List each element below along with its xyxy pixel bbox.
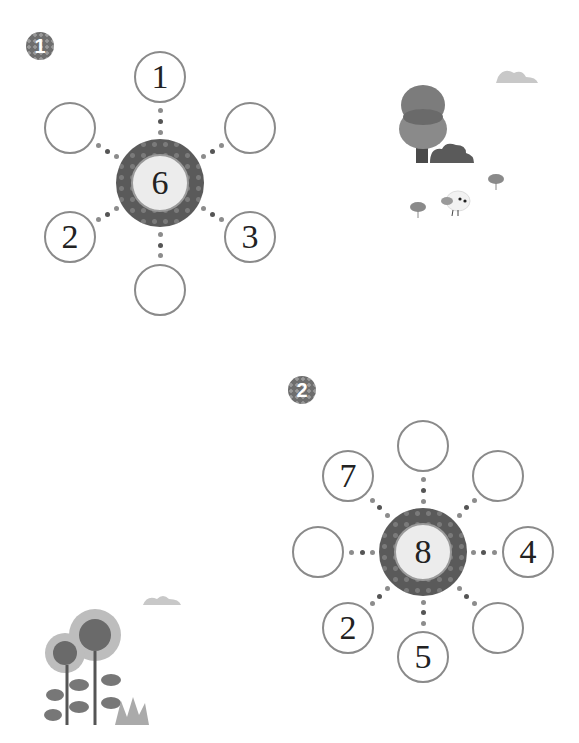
- connector-dot: [370, 498, 375, 503]
- connector-dot: [96, 143, 101, 148]
- answer-circle-top[interactable]: 1: [134, 51, 186, 103]
- answer-circle-lower-left[interactable]: 2: [44, 211, 96, 263]
- answer-circle-right[interactable]: 4: [502, 526, 554, 578]
- connector-dot: [471, 550, 476, 555]
- connector-dot: [421, 610, 426, 615]
- problem-number-badge: 2: [288, 376, 316, 404]
- connector-dot: [492, 550, 497, 555]
- connector-dot: [96, 217, 101, 222]
- connector-dot: [370, 550, 375, 555]
- hub-number: 6: [131, 154, 189, 212]
- answer-circle-upper-right[interactable]: [224, 102, 276, 154]
- connector-dot: [158, 253, 163, 258]
- connector-dot: [114, 206, 119, 211]
- connector-dot: [464, 505, 469, 510]
- connector-dot: [158, 108, 163, 113]
- connector-dot: [385, 586, 390, 591]
- connector-dot: [421, 499, 426, 504]
- answer-circle-lower-right[interactable]: 3: [224, 211, 276, 263]
- answer-circle-bottom[interactable]: 5: [397, 631, 449, 683]
- sunflower-illustration: [35, 585, 200, 730]
- connector-dot: [158, 232, 163, 237]
- connector-dot: [158, 130, 163, 135]
- answer-circle-top[interactable]: [397, 420, 449, 472]
- answer-circle-upper-right[interactable]: [472, 450, 524, 502]
- connector-dot: [349, 550, 354, 555]
- connector-dot: [421, 488, 426, 493]
- connector-dot: [158, 243, 163, 248]
- connector-dot: [421, 600, 426, 605]
- connector-dot: [114, 154, 119, 159]
- answer-circle-upper-left[interactable]: [44, 102, 96, 154]
- connector-dot: [421, 477, 426, 482]
- connector-dot: [421, 621, 426, 626]
- tree-bird-illustration: [390, 55, 550, 225]
- answer-circle-upper-left[interactable]: 7: [322, 450, 374, 502]
- hub-circle: 8: [379, 508, 467, 596]
- connector-dot: [377, 594, 382, 599]
- connector-dot: [219, 217, 224, 222]
- connector-dot: [360, 550, 365, 555]
- connector-dot: [472, 498, 477, 503]
- connector-dot: [105, 212, 110, 217]
- connector-dot: [219, 143, 224, 148]
- problem-number-badge: 1: [26, 32, 54, 60]
- answer-circle-left[interactable]: [292, 526, 344, 578]
- answer-circle-bottom[interactable]: [134, 264, 186, 316]
- connector-dot: [201, 154, 206, 159]
- connector-dot: [457, 586, 462, 591]
- connector-dot: [370, 601, 375, 606]
- connector-dot: [105, 149, 110, 154]
- connector-dot: [158, 119, 163, 124]
- connector-dot: [201, 206, 206, 211]
- connector-dot: [210, 149, 215, 154]
- connector-dot: [481, 550, 486, 555]
- connector-dot: [210, 212, 215, 217]
- connector-dot: [385, 513, 390, 518]
- hub-circle: 6: [116, 139, 204, 227]
- answer-circle-lower-left[interactable]: 2: [322, 602, 374, 654]
- connector-dot: [464, 594, 469, 599]
- answer-circle-lower-right[interactable]: [472, 602, 524, 654]
- connector-dot: [377, 505, 382, 510]
- hub-number: 8: [394, 523, 452, 581]
- connector-dot: [472, 601, 477, 606]
- connector-dot: [457, 513, 462, 518]
